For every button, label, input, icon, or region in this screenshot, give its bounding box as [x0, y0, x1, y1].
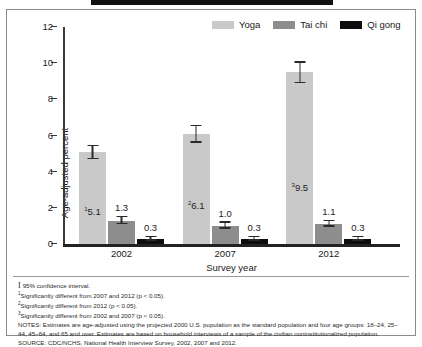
y-tick-label: 8: [48, 93, 53, 104]
error-bar-cap-top: [191, 125, 202, 127]
error-bar-cap-bottom: [220, 227, 231, 229]
error-bar-cap-top: [87, 145, 98, 147]
error-bar-cap-bottom: [294, 82, 305, 84]
x-tick-label-2012: 2012: [318, 248, 339, 259]
note-source: SOURCE: CDC/NCHS, National Health Interv…: [18, 339, 405, 347]
x-axis-line: [63, 244, 400, 247]
error-bar-cap-top: [220, 221, 231, 223]
bar-tai-chi-2007[interactable]: [212, 226, 239, 244]
error-bar-cap-top: [323, 220, 334, 222]
error-bar-cap-bottom: [191, 141, 202, 143]
bar-qi-gong-2002[interactable]: [137, 239, 164, 244]
y-tick-6: 6: [57, 135, 63, 136]
y-tick-12: 12: [57, 26, 63, 27]
error-bar-cap-bottom: [116, 223, 127, 225]
error-bar-cap-top: [116, 216, 127, 218]
bar-tai-chi-2012[interactable]: [315, 224, 342, 244]
footnote-2-text: Significantly different from 2012 (p < 0…: [21, 302, 138, 309]
x-axis-title: Survey year: [63, 262, 400, 273]
x-tick-label-2007: 2007: [215, 248, 236, 259]
error-bar: [116, 216, 127, 224]
error-bar-stem: [299, 61, 301, 83]
error-bar-cap-top: [145, 236, 156, 238]
y-tick-4: 4: [57, 171, 63, 172]
y-tick-8: 8: [57, 98, 63, 99]
notes-block: I95% confidence interval. 1Significantly…: [18, 280, 405, 347]
bar-value-marker: 1: [84, 206, 87, 212]
error-bar-stem: [195, 125, 197, 143]
bar-value-label: 15.1: [84, 206, 101, 217]
error-bar-cap-bottom: [145, 239, 156, 241]
bar-qi-gong-2007[interactable]: [241, 239, 268, 244]
note-notes-paragraph: NOTES: Estimates are age-adjusted using …: [18, 321, 405, 339]
footnote-3-text: Significantly different from 2002 and 20…: [21, 312, 165, 319]
plot-area: 024681012 15.11.30.3200226.11.00.3200739…: [63, 27, 400, 244]
bar-group-2012: 39.51.10.32012: [286, 27, 378, 244]
error-bar: [294, 61, 305, 83]
error-bar-cap-bottom: [323, 225, 334, 227]
bar-value-label: 1.3: [115, 203, 128, 213]
bar-value-label: 0.3: [248, 223, 261, 233]
y-axis-line: [63, 27, 65, 244]
y-tick-label: 2: [48, 201, 53, 212]
bar-yoga-2007[interactable]: 26.1: [183, 134, 210, 244]
y-tick-0: 0: [57, 243, 63, 244]
note-footnote-3: 3Significantly different from 2002 and 2…: [18, 311, 405, 321]
bar-qi-gong-2012[interactable]: [344, 239, 371, 244]
error-bar-cap-bottom: [87, 158, 98, 160]
error-bar: [323, 220, 334, 227]
y-tick-label: 6: [48, 129, 53, 140]
error-bar: [145, 236, 156, 241]
bar-value-label: 1.1: [322, 207, 335, 217]
y-tick-10: 10: [57, 62, 63, 63]
bar-value-label: 0.3: [144, 223, 157, 233]
bar-value-label: 26.1: [188, 200, 205, 211]
note-footnote-2: 2Significantly different from 2012 (p < …: [18, 301, 405, 311]
bar-value-label: 39.5: [292, 182, 309, 193]
bar-value-label: 0.3: [351, 223, 364, 233]
note-footnote-1: 1Significantly different from 2007 and 2…: [18, 291, 405, 301]
bar-value-marker: 2: [188, 200, 191, 206]
bar-group-2007: 26.11.00.32007: [183, 27, 275, 244]
notes-divider: [13, 276, 409, 277]
bar-yoga-2002[interactable]: 15.1: [79, 152, 106, 244]
figure-panel: Yoga Tai chi Qi gong Age-adjusted percen…: [6, 9, 416, 336]
error-bar-cap-bottom: [249, 239, 260, 241]
cropped-title-bar: [91, 0, 333, 5]
error-bar: [220, 221, 231, 228]
bar-yoga-2012[interactable]: 39.5: [286, 72, 313, 244]
note-ci: I95% confidence interval.: [18, 280, 405, 291]
footnote-1-text: Significantly different from 2007 and 20…: [21, 292, 165, 299]
y-tick-label: 0: [48, 238, 53, 249]
y-tick-2: 2: [57, 207, 63, 208]
error-bar: [191, 125, 202, 143]
bar-value-label: 1.0: [219, 209, 232, 219]
x-tick-label-2002: 2002: [111, 248, 132, 259]
bar-tai-chi-2002[interactable]: [108, 221, 135, 245]
error-bar-cap-top: [294, 61, 305, 63]
bar-value-marker: 3: [292, 182, 295, 188]
y-tick-label: 10: [42, 57, 53, 68]
note-ci-text: 95% confidence interval.: [23, 282, 90, 289]
error-bar: [352, 236, 363, 241]
error-bar: [87, 145, 98, 159]
y-tick-label: 4: [48, 165, 53, 176]
error-bar-cap-top: [249, 236, 260, 238]
bar-group-2002: 15.11.30.32002: [79, 27, 171, 244]
error-bar-cap-bottom: [352, 239, 363, 241]
y-tick-label: 12: [42, 21, 53, 32]
error-bar-cap-top: [352, 236, 363, 238]
error-bar: [249, 236, 260, 241]
